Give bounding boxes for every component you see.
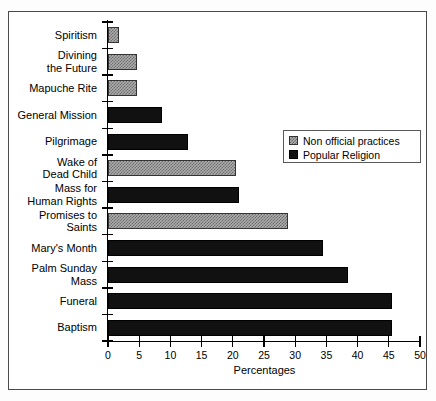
bar <box>108 107 162 123</box>
category-label: Mass for Human Rights <box>27 182 97 207</box>
bar <box>108 160 236 176</box>
legend-swatch <box>289 136 298 145</box>
y-tick-mark <box>102 154 113 155</box>
bar <box>108 293 392 309</box>
y-tick-mark <box>102 181 113 182</box>
legend-label: Popular Religion <box>303 149 380 161</box>
category-label: Promises to Saints <box>39 209 97 234</box>
bar <box>108 240 323 256</box>
y-tick-mark <box>102 234 113 235</box>
bar <box>108 27 119 43</box>
y-tick-mark <box>102 21 113 22</box>
bar <box>108 80 137 96</box>
bar <box>108 54 137 70</box>
legend-label: Non official practices <box>303 135 400 147</box>
x-tick-mark <box>170 336 171 347</box>
category-label: Pilgrimage <box>45 135 97 148</box>
bar <box>108 320 392 336</box>
category-label: General Mission <box>18 109 97 122</box>
x-tick-label: 40 <box>343 349 373 361</box>
legend-swatch <box>289 150 298 159</box>
category-label: Palm Sunday Mass <box>32 262 97 287</box>
y-tick-mark <box>102 74 113 75</box>
bar <box>108 213 288 229</box>
x-tick-mark <box>388 336 389 347</box>
y-tick-mark <box>102 287 113 288</box>
category-label: Divining the Future <box>47 49 97 74</box>
y-tick-mark <box>102 340 113 341</box>
x-tick-label: 45 <box>374 349 404 361</box>
x-tick-label: 0 <box>93 349 123 361</box>
category-label: Spiritism <box>55 29 97 42</box>
category-label: Mapuche Rite <box>29 82 97 95</box>
x-tick-mark <box>232 336 233 347</box>
category-label: Funeral <box>60 295 97 308</box>
x-tick-mark <box>326 336 327 347</box>
legend-item: Non official practices <box>289 134 420 147</box>
category-label: Baptism <box>57 321 97 334</box>
x-tick-label: 10 <box>155 349 185 361</box>
y-tick-mark <box>102 207 113 208</box>
category-label: Mary's Month <box>31 242 97 255</box>
legend-item: Popular Religion <box>289 148 420 161</box>
figure: 05101520253035404550 SpiritismDivining t… <box>0 0 436 401</box>
y-tick-mark <box>102 314 113 315</box>
legend: Non official practicesPopular Religion <box>283 130 421 163</box>
x-tick-mark <box>295 336 296 347</box>
x-tick-mark <box>419 336 420 347</box>
x-tick-mark <box>139 336 140 347</box>
x-tick-label: 20 <box>218 349 248 361</box>
x-axis-title: Percentages <box>108 364 421 376</box>
x-tick-label: 15 <box>187 349 217 361</box>
x-tick-label: 30 <box>280 349 310 361</box>
x-tick-mark <box>263 336 264 347</box>
x-tick-mark <box>201 336 202 347</box>
y-tick-mark <box>102 128 113 129</box>
plot-area: 05101520253035404550 SpiritismDivining t… <box>0 0 436 401</box>
x-tick-label: 50 <box>405 349 435 361</box>
x-tick-label: 25 <box>249 349 279 361</box>
x-tick-label: 5 <box>124 349 154 361</box>
y-tick-mark <box>102 101 113 102</box>
y-tick-mark <box>102 48 113 49</box>
x-tick-label: 35 <box>311 349 341 361</box>
bar <box>108 267 348 283</box>
bar <box>108 187 239 203</box>
bar <box>108 134 188 150</box>
y-tick-mark <box>102 261 113 262</box>
x-tick-mark <box>357 336 358 347</box>
category-label: Wake of Dead Child <box>43 156 97 181</box>
